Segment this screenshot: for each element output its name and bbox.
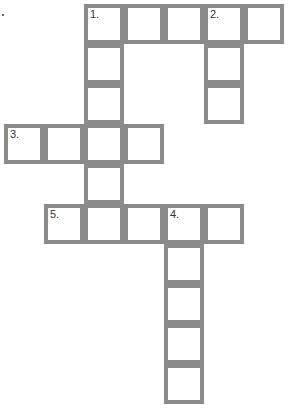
crossword-cell[interactable] [164,284,204,324]
crossword-cell[interactable]: 4. [164,204,204,244]
crossword-cell[interactable] [84,204,124,244]
crossword-cell[interactable] [164,324,204,364]
crossword-cell[interactable] [124,204,164,244]
clue-number: 2. [210,8,219,20]
crossword-cell[interactable] [164,364,204,404]
crossword-cell[interactable] [204,84,244,124]
clue-number: 3. [10,128,19,140]
crossword-cell[interactable]: 3. [4,124,44,164]
crossword-cell[interactable] [124,4,164,44]
crossword-cell[interactable] [84,124,124,164]
crossword-cell[interactable] [204,204,244,244]
clue-number: 1. [90,8,99,20]
clue-number: 5. [50,208,59,220]
crossword-cell[interactable] [124,124,164,164]
crossword-cell[interactable]: 1. [84,4,124,44]
crossword-cell[interactable] [84,164,124,204]
crossword-cell[interactable]: 5. [44,204,84,244]
crossword-cell[interactable] [84,84,124,124]
crossword-cell[interactable] [84,44,124,84]
crossword-cell[interactable] [44,124,84,164]
stray-dot-mark [2,14,4,16]
crossword-cell[interactable] [164,4,204,44]
crossword-cell[interactable]: 2. [204,4,244,44]
clue-number: 4. [170,208,179,220]
crossword-cell[interactable] [164,244,204,284]
crossword-cell[interactable] [204,44,244,84]
crossword-cell[interactable] [244,4,284,44]
